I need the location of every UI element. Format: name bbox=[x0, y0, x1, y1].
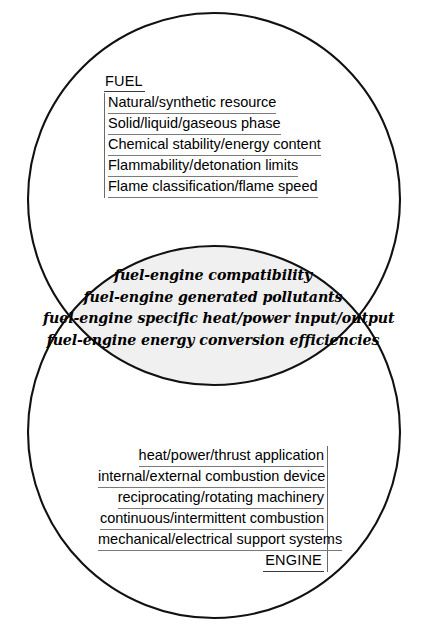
fuel-item-list: Natural/synthetic resource Solid/liquid/… bbox=[104, 93, 328, 198]
fuel-list-item: Chemical stability/energy content bbox=[105, 135, 328, 156]
fuel-list-item-label: Flame classification/flame speed bbox=[108, 177, 318, 198]
engine-list-item: reciprocating/rotating machinery bbox=[96, 488, 327, 509]
fuel-list-item-label: Flammability/detonation limits bbox=[108, 156, 298, 177]
engine-list-item-label: reciprocating/rotating machinery bbox=[118, 488, 324, 509]
engine-list-item: continuous/intermittent combustion bbox=[96, 509, 327, 530]
engine-list-item-label: mechanical/electrical support systems bbox=[98, 530, 342, 551]
fuel-heading: FUEL bbox=[104, 72, 145, 92]
fuel-list-item-label: Natural/synthetic resource bbox=[108, 93, 276, 114]
venn-diagram: FUEL Natural/synthetic resource Solid/li… bbox=[0, 0, 426, 624]
engine-list-item: mechanical/electrical support systems bbox=[96, 530, 327, 551]
engine-heading-row: ENGINE bbox=[96, 551, 327, 572]
fuel-section: FUEL Natural/synthetic resource Solid/li… bbox=[104, 72, 328, 198]
fuel-list-item-label: Chemical stability/energy content bbox=[108, 135, 321, 156]
engine-section: heat/power/thrust application internal/e… bbox=[96, 446, 328, 572]
intersection-text-group: fuel-engine compatibility fuel-engine ge… bbox=[43, 265, 383, 351]
intersection-item: fuel-engine compatibility bbox=[43, 265, 383, 287]
engine-list-item-label: heat/power/thrust application bbox=[139, 446, 324, 467]
fuel-list-item: Flammability/detonation limits bbox=[105, 156, 328, 177]
engine-heading: ENGINE bbox=[263, 551, 324, 572]
intersection-item: fuel-engine generated pollutants bbox=[43, 287, 383, 309]
engine-item-list: heat/power/thrust application internal/e… bbox=[96, 446, 328, 572]
engine-list-item: heat/power/thrust application bbox=[96, 446, 327, 467]
engine-list-item-label: continuous/intermittent combustion bbox=[100, 509, 324, 530]
engine-list-item-label: internal/external combustion device bbox=[98, 467, 325, 488]
engine-list-item: internal/external combustion device bbox=[96, 467, 327, 488]
fuel-list-item: Natural/synthetic resource bbox=[105, 93, 328, 114]
fuel-list-item: Solid/liquid/gaseous phase bbox=[105, 114, 328, 135]
fuel-list-item-label: Solid/liquid/gaseous phase bbox=[108, 114, 281, 135]
fuel-list-item: Flame classification/flame speed bbox=[105, 177, 328, 198]
intersection-item: fuel-engine specific heat/power input/ou… bbox=[43, 308, 383, 330]
intersection-item: fuel-engine energy conversion efficienci… bbox=[43, 330, 383, 352]
